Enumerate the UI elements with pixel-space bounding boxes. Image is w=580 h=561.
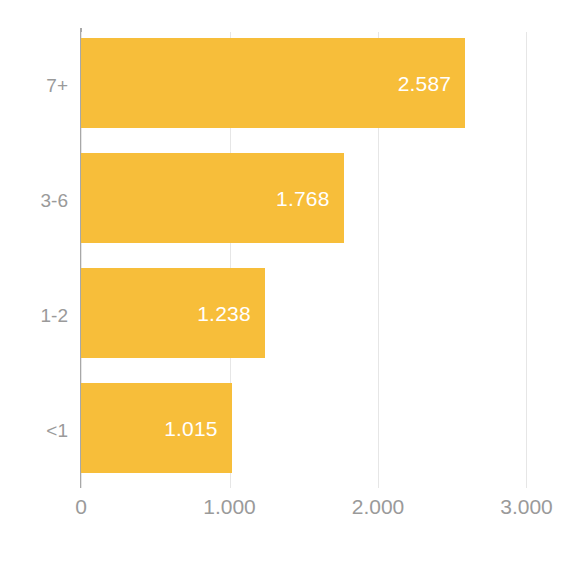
y-axis-tick-label-1-2: 1-2 — [6, 306, 68, 325]
y-axis-tick-label-7plus: 7+ — [6, 76, 68, 95]
y-axis-tick-label-3-6: 3-6 — [6, 191, 68, 210]
bar-band-lt1: 1.015 — [81, 377, 527, 479]
bar-band-7plus: 2.587 — [81, 32, 527, 134]
bar-band-1-2: 1.238 — [81, 262, 527, 364]
bar-7plus[interactable]: 2.587 — [81, 38, 465, 128]
bar-band-3-6: 1.768 — [81, 147, 527, 249]
bar-chart: 7+ 3-6 1-2 <1 2.587 1.768 1.238 — [0, 0, 580, 561]
x-axis-tick-label-2000: 2.000 — [352, 496, 405, 517]
x-axis-tick-label-3000: 3.000 — [500, 496, 553, 517]
bar-value-label-1-2: 1.238 — [197, 303, 251, 324]
bar-1-2[interactable]: 1.238 — [81, 268, 265, 358]
bar-value-label-lt1: 1.015 — [164, 418, 218, 439]
bar-lt1[interactable]: 1.015 — [81, 383, 232, 473]
bar-value-label-7plus: 2.587 — [398, 73, 452, 94]
bar-value-label-3-6: 1.768 — [276, 188, 330, 209]
x-axis-labels: 0 1.000 2.000 3.000 — [0, 496, 580, 536]
x-axis-tick-label-1000: 1.000 — [203, 496, 256, 517]
x-axis-tick-label-0: 0 — [75, 496, 87, 517]
y-axis-tick-label-lt1: <1 — [6, 421, 68, 440]
bar-3-6[interactable]: 1.768 — [81, 153, 344, 243]
plot-area: 2.587 1.768 1.238 1.015 — [81, 32, 527, 477]
y-axis-labels: 7+ 3-6 1-2 <1 — [0, 32, 68, 477]
